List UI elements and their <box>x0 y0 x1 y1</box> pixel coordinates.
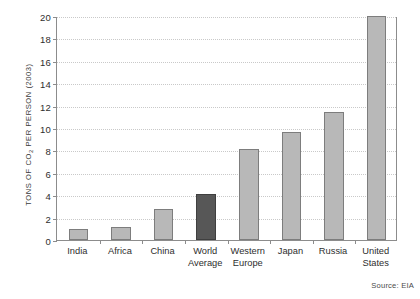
y-axis-tick-label: 20 <box>40 12 51 23</box>
bar <box>367 16 387 240</box>
bar <box>196 194 216 240</box>
x-axis-tick <box>100 240 101 244</box>
bar <box>324 112 344 240</box>
x-axis-label: China <box>141 245 184 257</box>
x-axis-label: World Average <box>184 245 227 269</box>
x-axis-label: India <box>56 245 99 257</box>
x-axis-label: United States <box>354 245 397 269</box>
source-note: Source: EIA <box>371 281 414 290</box>
y-axis-tick-label: 12 <box>40 101 51 112</box>
x-axis-label: Africa <box>99 245 142 257</box>
y-axis-title-pre: TONS OF CO <box>24 153 33 206</box>
bars-group <box>57 17 396 240</box>
x-axis-tick <box>270 240 271 244</box>
bar <box>239 149 259 240</box>
bar <box>69 229 89 240</box>
x-axis-tick <box>355 240 356 244</box>
y-axis-title: TONS OF CO2 PER PERSON (2003) <box>24 30 33 240</box>
bar <box>154 209 174 240</box>
x-axis-labels: IndiaAfricaChinaWorld AverageWestern Eur… <box>56 245 397 279</box>
x-axis-label: Western Europe <box>227 245 270 269</box>
y-axis-tick-label: 18 <box>40 34 51 45</box>
x-axis-tick <box>185 240 186 244</box>
bar <box>282 132 302 240</box>
y-axis-tick-label: 6 <box>46 168 51 179</box>
x-axis-label: Japan <box>269 245 312 257</box>
bar-chart: TONS OF CO2 PER PERSON (2003) 0246810121… <box>0 0 420 299</box>
y-axis-tick-label: 0 <box>46 236 51 247</box>
y-axis-tick-label: 10 <box>40 124 51 135</box>
x-axis-tick <box>228 240 229 244</box>
y-axis-tick <box>53 241 57 242</box>
y-axis-tick-label: 2 <box>46 213 51 224</box>
bar <box>111 227 131 240</box>
y-axis-title-subscript: 2 <box>27 149 33 153</box>
x-axis-tick <box>142 240 143 244</box>
y-axis-title-post: PER PERSON (2003) <box>24 63 33 149</box>
x-axis-label: Russia <box>312 245 355 257</box>
plot-area: 02468101214161820 <box>56 17 397 241</box>
y-axis-tick-label: 16 <box>40 56 51 67</box>
x-axis-tick <box>313 240 314 244</box>
y-axis-tick-label: 8 <box>46 146 51 157</box>
y-axis-tick-label: 4 <box>46 191 51 202</box>
y-axis-tick-label: 14 <box>40 79 51 90</box>
